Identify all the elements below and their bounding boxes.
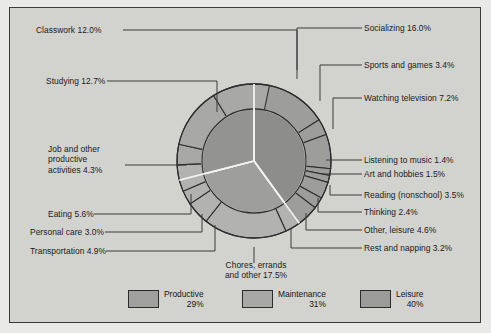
label-job-line3: activities 4.3% [48,165,102,175]
legend-swatch-productive [128,290,159,308]
label-television: Watching television 7.2% [364,93,458,103]
label-eating: Eating 5.6% [48,209,94,219]
legend-swatch-maintenance [242,290,273,308]
label-transportation: Transportation 4.9% [30,246,106,256]
label-music: Listening to music 1.4% [364,155,454,165]
label-job-productive: Job and other productive activities 4.3% [48,144,124,175]
label-thinking: Thinking 2.4% [364,207,418,217]
label-chores: Chores, errands and other 17.5% [206,260,306,281]
label-job-line2: productive [48,154,87,164]
legend-item-maintenance[interactable]: Maintenance 31% [242,289,326,309]
label-sports: Sports and games 3.4% [364,60,454,70]
legend-swatch-leisure [360,290,391,308]
legend-item-productive[interactable]: Productive 29% [128,289,204,309]
legend-item-leisure[interactable]: Leisure 40% [360,289,423,309]
label-chores-line1: Chores, errands [226,260,287,270]
label-socializing: Socializing 16.0% [364,23,431,33]
label-art: Art and hobbies 1.5% [364,169,445,179]
label-job-line1: Job and other [48,144,100,154]
legend-label-productive: Productive 29% [164,289,204,309]
legend-label-productive-text: Productive [164,289,204,299]
label-studying: Studying 12.7% [46,76,105,86]
label-reading: Reading (nonschool) 3.5% [364,190,464,200]
legend-label-leisure: Leisure 40% [396,289,423,309]
legend-label-leisure-pct: 40% [396,299,423,309]
legend-label-productive-pct: 29% [164,299,204,309]
label-personal-care: Personal care 3.0% [30,227,104,237]
label-rest-napping: Rest and napping 3.2% [364,243,452,253]
label-other-leisure: Other, leisure 4.6% [364,225,436,235]
label-chores-line2: and other 17.5% [225,270,287,280]
chart-panel: Classwork 12.0% Studying 12.7% Job and o… [9,7,481,323]
legend-label-maintenance-pct: 31% [278,299,326,309]
legend-label-maintenance-text: Maintenance [278,289,326,299]
legend-label-leisure-text: Leisure [396,289,423,299]
label-classwork: Classwork 12.0% [36,25,101,35]
legend-label-maintenance: Maintenance 31% [278,289,326,309]
